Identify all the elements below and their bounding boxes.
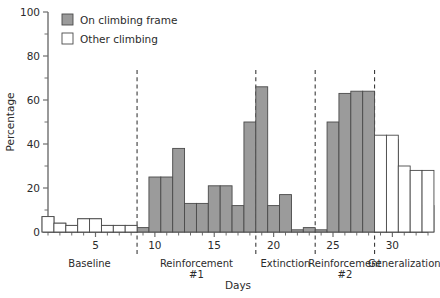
x-tick-label: 15 [208, 239, 221, 251]
bar-on-climbing-frame [363, 91, 375, 232]
x-axis-title: Days [225, 279, 251, 291]
bar-on-climbing-frame [303, 228, 315, 232]
y-axis-title: Percentage [4, 92, 16, 151]
bar-other-climbing [101, 225, 113, 232]
bar-on-climbing-frame [173, 148, 185, 232]
bar-on-climbing-frame [208, 186, 220, 232]
x-tick-label: 20 [267, 239, 280, 251]
bar-on-climbing-frame [244, 122, 256, 232]
bar-on-climbing-frame [220, 186, 232, 232]
bar-on-climbing-frame [232, 206, 244, 232]
y-tick-label: 20 [27, 182, 40, 194]
legend-label: On climbing frame [80, 14, 177, 26]
x-tick-label: 25 [326, 239, 339, 251]
bar-other-climbing [90, 219, 102, 232]
bar-other-climbing [125, 225, 137, 232]
bar-on-climbing-frame [315, 230, 327, 232]
bar-other-climbing [113, 225, 125, 232]
legend-label: Other climbing [80, 33, 158, 45]
bar-on-climbing-frame [280, 195, 292, 232]
bar-other-climbing [78, 219, 90, 232]
chart-container: 020406080100Percentage51015202530Baselin… [0, 0, 440, 298]
bar-on-climbing-frame [149, 177, 161, 232]
y-tick-label: 100 [20, 6, 40, 18]
bar-on-climbing-frame [256, 87, 268, 232]
phase-label: Extinction [261, 258, 311, 269]
bar-other-climbing [422, 170, 434, 232]
bar-on-climbing-frame [268, 206, 280, 232]
bar-other-climbing [386, 135, 398, 232]
bar-on-climbing-frame [137, 228, 149, 232]
phase-label-sub: #2 [338, 269, 353, 280]
bar-other-climbing [42, 217, 54, 232]
bar-on-climbing-frame [291, 230, 303, 232]
y-tick-label: 60 [27, 94, 40, 106]
phase-label-sub: #1 [189, 269, 204, 280]
bar-on-climbing-frame [185, 203, 197, 232]
bar-on-climbing-frame [351, 91, 363, 232]
bar-other-climbing [375, 135, 387, 232]
y-tick-label: 0 [33, 226, 40, 238]
percentage-bar-chart: 020406080100Percentage51015202530Baselin… [0, 0, 440, 298]
x-tick-label: 30 [386, 239, 399, 251]
phase-label: Baseline [68, 258, 110, 269]
bar-other-climbing [66, 225, 78, 232]
bar-on-climbing-frame [161, 177, 173, 232]
y-tick-label: 40 [27, 138, 40, 150]
bar-other-climbing [410, 170, 422, 232]
bar-other-climbing [54, 223, 66, 232]
bar-other-climbing [398, 166, 410, 232]
phase-label: Generalization [368, 258, 440, 269]
bar-on-climbing-frame [339, 93, 351, 232]
legend-swatch-open [62, 33, 73, 44]
bar-on-climbing-frame [327, 122, 339, 232]
phase-label: Reinforcement [160, 258, 233, 269]
x-tick-label: 10 [148, 239, 161, 251]
legend-swatch-filled [62, 14, 73, 25]
y-tick-label: 80 [27, 50, 40, 62]
x-tick-label: 5 [92, 239, 99, 251]
bar-on-climbing-frame [196, 203, 208, 232]
